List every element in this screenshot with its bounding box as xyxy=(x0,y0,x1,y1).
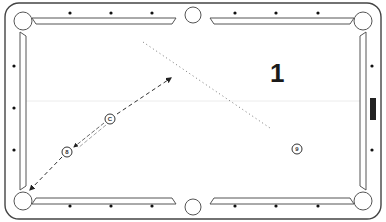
diamond-marker xyxy=(150,11,153,14)
ball-cue: C xyxy=(105,114,115,124)
pocket-top-right xyxy=(354,12,372,30)
diamond-marker xyxy=(316,11,319,14)
diamonds xyxy=(12,11,373,207)
diamond-marker xyxy=(109,204,112,207)
diamond-marker xyxy=(274,11,277,14)
diamond-marker xyxy=(370,64,373,67)
diamond-marker xyxy=(316,204,319,207)
diamond-marker xyxy=(370,148,373,151)
pocket-bottom-left xyxy=(14,192,32,210)
reference-dotted-line xyxy=(143,42,270,128)
ball-9: 9 xyxy=(292,144,302,154)
object-ball-to-pocket-path xyxy=(30,157,62,190)
pocket-top-middle xyxy=(185,7,201,23)
pool-table-diagram: C 8 9 xyxy=(0,0,386,222)
diamond-marker xyxy=(12,106,15,109)
diamond-marker xyxy=(12,148,15,151)
pocket-top-left xyxy=(14,12,32,30)
diamond-marker xyxy=(233,204,236,207)
cue-to-8-path xyxy=(74,123,104,147)
ball-8: 8 xyxy=(62,147,72,157)
cue-to-8-path-parallel xyxy=(78,125,106,148)
diamond-marker xyxy=(68,204,71,207)
diamond-marker xyxy=(274,204,277,207)
diamond-marker xyxy=(109,11,112,14)
shot-number-label: 1 xyxy=(270,60,284,86)
cushions xyxy=(20,18,366,204)
ball-label: C xyxy=(108,116,113,122)
table-outer-rail xyxy=(5,3,381,219)
rail-aim-marker xyxy=(370,98,376,120)
cue-ball-path xyxy=(117,78,171,114)
pockets xyxy=(14,7,372,215)
pocket-bottom-right xyxy=(354,192,372,210)
diamond-marker xyxy=(12,64,15,67)
diamond-marker xyxy=(233,11,236,14)
diamond-marker xyxy=(68,11,71,14)
pocket-bottom-middle xyxy=(185,199,201,215)
diamond-marker xyxy=(150,204,153,207)
